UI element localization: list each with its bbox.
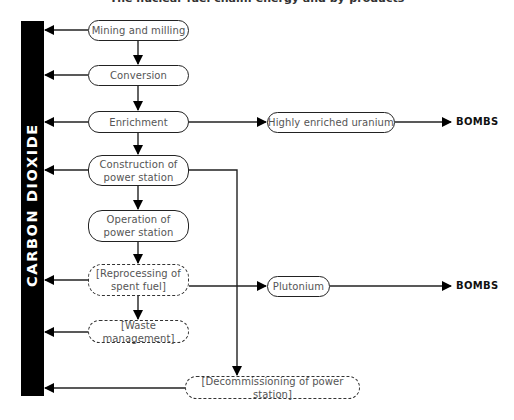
node-reprocessing-of-spent-fuel: [Reprocessing of spent fuel] [88,264,189,296]
node-plutonium: Plutonium [267,276,330,297]
node-label-line-1: Operation of [107,213,171,226]
node-waste-management: [Waste management] [88,320,189,343]
node-decommissioning-of-power-station: [Decommissioning of power station] [185,376,360,399]
node-label: Enrichment [109,116,168,129]
node-mining-and-milling: Mining and milling [88,20,189,41]
node-label: Mining and milling [92,24,186,37]
node-construction-of-power-station: Construction of power station [88,155,189,186]
bombs-label-uranium: BOMBS [456,116,498,127]
node-label-line-2: power station [104,226,174,239]
carbon-dioxide-label: CARBON DIOXIDE [24,123,40,287]
node-label-line-1: [Reprocessing of [96,267,181,280]
connector-lines [0,0,514,420]
node-label: Highly enriched uranium [268,116,394,129]
node-label: [Waste management] [89,319,188,345]
node-label: Conversion [110,69,167,82]
bombs-label-plutonium: BOMBS [456,280,498,291]
node-label-line-2: spent fuel] [111,280,166,293]
nuclear-fuel-chain-diagram: The nuclear fuel chain: energy and by-pr… [0,0,514,420]
node-enrichment: Enrichment [88,111,189,133]
node-label-line-1: Construction of [100,158,178,171]
node-label: Plutonium [273,280,324,293]
node-label-line-2: power station [104,171,174,184]
node-operation-of-power-station: Operation of power station [88,210,189,242]
node-highly-enriched-uranium: Highly enriched uranium [267,112,395,133]
node-label: [Decommissioning of power station] [186,375,359,401]
node-conversion: Conversion [88,65,189,86]
